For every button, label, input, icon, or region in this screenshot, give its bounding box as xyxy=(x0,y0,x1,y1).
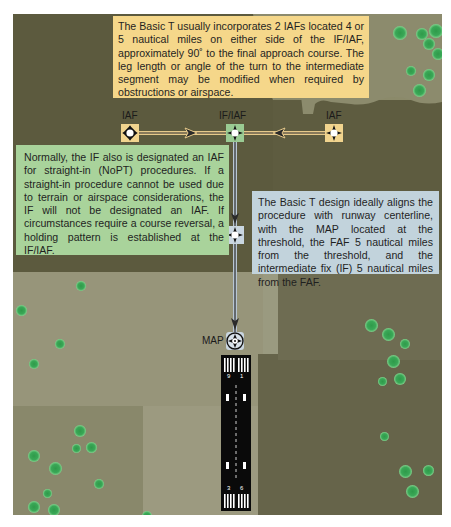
runway-number-bottom-left: 3 xyxy=(227,485,230,491)
map-label: MAP xyxy=(202,335,224,346)
waypoint-icon xyxy=(122,125,138,141)
waypoint-icon xyxy=(227,125,243,141)
callout-top-text: The Basic T usually incorporates 2 IAFs … xyxy=(118,20,364,100)
map-waypoint-icon xyxy=(227,333,243,349)
waypoint-icon xyxy=(326,125,342,141)
runway-number-top-right: 1 xyxy=(240,373,243,379)
callout-right: The Basic T design ideally aligns the pr… xyxy=(252,191,439,274)
runway xyxy=(221,355,251,511)
runway-number-top-left: 9 xyxy=(227,373,230,379)
iaf-left-label: IAF xyxy=(122,110,138,121)
runway-number-bottom-right: 6 xyxy=(240,485,243,491)
if-iaf-label: IF/IAF xyxy=(219,110,246,121)
callout-right-text: The Basic T design ideally aligns the pr… xyxy=(258,196,433,289)
waypoint-icon xyxy=(227,227,243,243)
callout-left: Normally, the IF also is designated an I… xyxy=(16,145,229,255)
callout-top: The Basic T usually incorporates 2 IAFs … xyxy=(113,16,369,98)
callout-left-text: Normally, the IF also is designated an I… xyxy=(24,151,224,257)
iaf-right-label: IAF xyxy=(326,110,342,121)
